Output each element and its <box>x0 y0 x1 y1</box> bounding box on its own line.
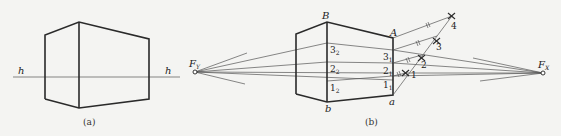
caption-b: (b) <box>365 117 378 127</box>
label-point-2: 2 <box>421 60 427 70</box>
rays-from-fy <box>195 43 393 84</box>
label-fx: FX <box>537 59 550 71</box>
label-b: b <box>325 103 331 114</box>
vanishing-point-fx <box>541 71 545 75</box>
label-point-4: 4 <box>451 21 457 31</box>
perspective-figure: h h (a) <box>0 0 561 136</box>
label-2-2: 22 <box>330 64 340 75</box>
label-1-1: 11 <box>383 80 393 91</box>
label-3-1: 31 <box>383 52 393 63</box>
horizon-label-left: h <box>18 65 24 76</box>
label-point-3: 3 <box>436 42 442 52</box>
caption-a: (a) <box>83 117 95 127</box>
label-A: A <box>389 27 397 38</box>
label-a: a <box>389 96 395 107</box>
figure-a: h h (a) <box>13 22 180 127</box>
horizon-label-right: h <box>165 65 171 76</box>
box-outline <box>45 22 149 108</box>
label-point-1: 1 <box>411 70 417 80</box>
division-diagonal <box>393 16 452 95</box>
figure-b: FY FX B b A a 32 22 12 31 21 11 1 2 3 4 … <box>188 10 550 127</box>
label-2-1: 21 <box>383 66 393 77</box>
label-1-2: 12 <box>330 83 340 94</box>
label-fy: FY <box>188 58 201 70</box>
label-B: B <box>321 10 329 21</box>
vanishing-point-fy <box>193 70 197 74</box>
label-3-2: 32 <box>330 45 340 56</box>
